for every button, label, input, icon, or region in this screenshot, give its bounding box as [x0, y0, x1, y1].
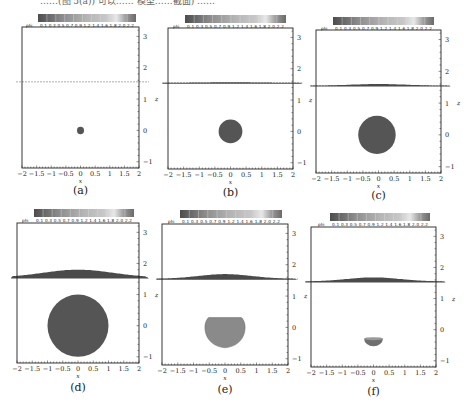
x-tick-label: 1.5 — [415, 369, 425, 377]
x-axis-label: x — [372, 376, 376, 383]
z-tick-label: −1 — [440, 357, 450, 365]
panel-f: phi0.1 0.3 0.5 0.7 0.9 1.2 1.4 1.6 1.8 2… — [0, 0, 467, 404]
panel-caption: (f) — [354, 385, 394, 398]
x-tick-label: −1 — [337, 369, 347, 377]
bubble — [364, 337, 383, 346]
z-tick-label: 2 — [440, 264, 444, 272]
z-axis-label: z — [451, 295, 456, 302]
colorbar-label: phi — [318, 222, 324, 227]
x-tick-label: −2 — [306, 369, 316, 377]
x-tick-label: 2 — [434, 369, 438, 377]
x-tick-label: −1.5 — [319, 369, 335, 377]
x-tick-label: −0.5 — [350, 369, 366, 377]
z-tick-label: 3 — [440, 233, 444, 241]
colorbar-ticks: 0.1 0.3 0.5 0.7 0.9 1.2 1.4 1.6 1.8 2.0 … — [332, 222, 428, 227]
z-tick-label: 1 — [440, 295, 444, 303]
z-tick-label: 0 — [440, 326, 444, 334]
colorbar — [330, 213, 430, 221]
surface-hump — [305, 277, 446, 282]
x-tick-label: 0.5 — [384, 369, 394, 377]
x-tick-label: 1 — [403, 369, 407, 377]
